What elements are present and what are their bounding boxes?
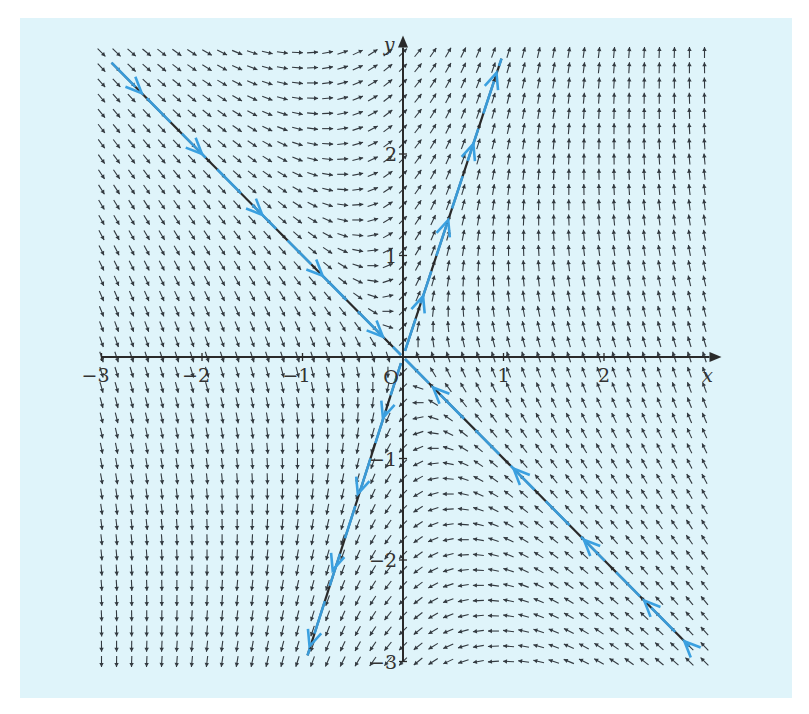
- x-axis-label: x: [702, 364, 713, 386]
- x-tick-label: 1: [497, 364, 509, 386]
- origin-label: O: [383, 366, 399, 388]
- x-tick-label: −1: [282, 364, 310, 386]
- x-tick-label: −2: [182, 364, 210, 386]
- x-tick-label: −3: [81, 364, 109, 386]
- y-tick-label: 2: [385, 143, 397, 165]
- y-tick-label: −2: [369, 549, 397, 571]
- y-tick-label: 1: [385, 245, 397, 267]
- y-tick-label: −3: [369, 651, 397, 673]
- y-axis-label: y: [383, 33, 395, 55]
- y-tick-label: −1: [369, 448, 397, 470]
- direction-field-plot: −3−2−11221−1−2−3Oxy: [0, 0, 809, 714]
- x-tick-label: 2: [598, 364, 610, 386]
